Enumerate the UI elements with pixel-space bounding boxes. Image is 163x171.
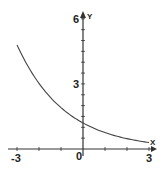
x-axis-label: X bbox=[150, 138, 156, 147]
exponential-graph: Y X 6 3 -3 0 3 bbox=[0, 0, 163, 171]
y-axis-arrow-icon bbox=[80, 11, 86, 18]
x-tick-label-neg3: -3 bbox=[11, 152, 21, 164]
y-tick-label-6: 6 bbox=[73, 13, 79, 25]
y-tick-label-3: 3 bbox=[73, 78, 79, 90]
y-axis-label: Y bbox=[87, 12, 93, 21]
x-tick-label-0: 0 bbox=[76, 150, 82, 162]
x-tick-label-3: 3 bbox=[146, 152, 152, 164]
